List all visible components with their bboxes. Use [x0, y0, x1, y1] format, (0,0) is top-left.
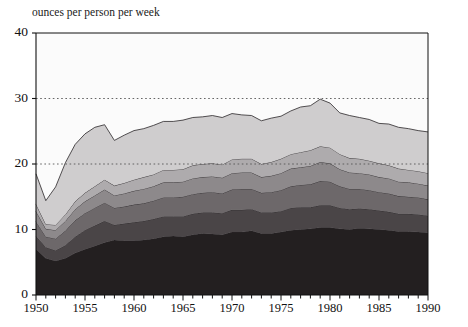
y-tick-label-20: 20: [2, 155, 28, 171]
x-tick-label-1985: 1985: [356, 301, 402, 316]
x-tick-label-1950: 1950: [13, 301, 59, 316]
x-tick-label-1955: 1955: [62, 301, 108, 316]
x-tick-label-1990: 1990: [405, 301, 451, 316]
y-tick-label-10: 10: [2, 221, 28, 237]
chart-figure: · ounces per person per week 010203040 1…: [0, 0, 468, 327]
x-tick-label-1965: 1965: [160, 301, 206, 316]
y-tick-label-0: 0: [2, 286, 28, 302]
x-tick-label-1960: 1960: [111, 301, 157, 316]
area-chart-plot: [0, 0, 468, 327]
x-tick-label-1975: 1975: [258, 301, 304, 316]
y-tick-label-30: 30: [2, 90, 28, 106]
x-tick-label-1980: 1980: [307, 301, 353, 316]
y-tick-label-40: 40: [2, 24, 28, 40]
stacked-area-group: [36, 99, 428, 295]
x-tick-label-1970: 1970: [209, 301, 255, 316]
